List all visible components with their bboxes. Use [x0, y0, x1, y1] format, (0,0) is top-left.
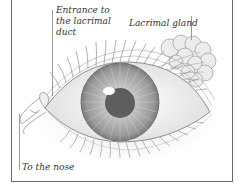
entrance-leader-line	[52, 10, 53, 96]
label-to-the-nose: To the nose	[22, 162, 74, 173]
label-entrance-line1: Entrance to	[56, 5, 111, 16]
nose-leader-line	[19, 114, 20, 170]
light-reflection	[103, 87, 115, 95]
label-entrance-lacrimal-duct: Entrance to the lacrimal duct	[56, 5, 111, 38]
eye-illustration	[0, 0, 240, 187]
label-entrance-line3: duct	[56, 27, 111, 38]
label-lacrimal-gland: Lacrimal gland	[129, 18, 198, 29]
label-entrance-line2: the lacrimal	[56, 16, 111, 27]
